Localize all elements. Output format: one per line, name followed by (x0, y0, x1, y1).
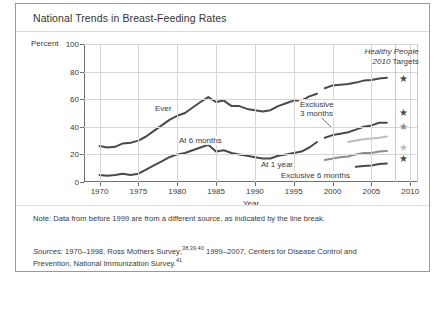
x-axis-tick-label: 1975 (129, 187, 147, 196)
note-text: Note: Data from before 1999 are from a d… (33, 213, 363, 224)
gridline-horizontal (84, 99, 418, 100)
x-axis-tick-label: 1995 (285, 187, 303, 196)
y-axis-tick-label: 60 (70, 95, 79, 104)
y-axis-tick-mark (80, 154, 84, 155)
targets-heading-line2: 2010 Targets (373, 57, 419, 66)
x-axis-tick-label: 2010 (401, 187, 419, 196)
sources-text: Sources: 1970–1998, Ross Mothers Survey;… (33, 246, 363, 269)
y-axis-name: Percent (31, 39, 59, 48)
title-divider (16, 31, 429, 32)
sources-part-1: 1970–1998, Ross Mothers Survey; (63, 247, 182, 256)
sources-label: Sources: (33, 247, 63, 256)
x-axis-tick-label: 1990 (246, 187, 264, 196)
targets-heading-line1: Healthy People (364, 47, 418, 56)
figure-root: National Trends in Breast-Feeding Rates … (0, 0, 445, 318)
gridline-vertical (100, 44, 101, 182)
x-axis-tick-label: 1985 (207, 187, 225, 196)
y-axis-tick-label: 0 (75, 178, 79, 187)
x-axis-tick-mark (410, 182, 411, 186)
x-axis-tick-mark (255, 182, 256, 186)
gridline-vertical (216, 44, 217, 182)
y-axis-tick-label: 40 (70, 122, 79, 131)
target-star-icon: ★ (399, 108, 408, 118)
page-title: National Trends in Breast-Feeding Rates (33, 12, 227, 24)
gridline-vertical (177, 44, 178, 182)
note-label: Note: (33, 214, 51, 223)
series-inline-label: Exclusive 6 months (280, 171, 351, 180)
note-body: Data from before 1999 are from a differe… (51, 214, 325, 223)
series-inline-label: Exclusive (299, 100, 335, 109)
x-axis-tick-label: 1970 (91, 187, 109, 196)
target-star-icon: ★ (399, 122, 408, 132)
gridline-horizontal (84, 44, 418, 45)
y-axis-tick-mark (80, 99, 84, 100)
x-axis-tick-mark (100, 182, 101, 186)
series-inline-label: At 6 months (178, 136, 223, 145)
target-star-icon: ★ (399, 143, 408, 153)
gridline-vertical (255, 44, 256, 182)
x-axis-title: Year (84, 199, 418, 208)
series-inline-label: 3 months (299, 109, 334, 118)
x-axis-tick-mark (138, 182, 139, 186)
x-axis-tick-mark (216, 182, 217, 186)
sources-superscript-1: 38,39,40 (182, 245, 204, 251)
targets-heading: Healthy People2010 Targets (333, 47, 419, 66)
y-axis-tick-label: 80 (70, 67, 79, 76)
target-star-icon: ★ (399, 74, 408, 84)
x-axis-tick-label: 1980 (168, 187, 186, 196)
x-axis-tick-label: 2000 (324, 187, 342, 196)
x-axis-tick-mark (371, 182, 372, 186)
note-divider (16, 205, 429, 206)
series-inline-label: At 1 year (260, 160, 294, 169)
target-star-icon: ★ (399, 154, 408, 164)
x-axis-tick-mark (294, 182, 295, 186)
x-axis-tick-mark (333, 182, 334, 186)
y-axis-tick-mark (80, 72, 84, 73)
x-axis-tick-label: 2005 (362, 187, 380, 196)
y-axis-tick-label: 20 (70, 150, 79, 159)
x-axis-tick-mark (177, 182, 178, 186)
gridline-horizontal (84, 72, 418, 73)
y-axis-tick-mark (80, 182, 84, 183)
series-inline-label: Ever (154, 104, 172, 113)
gridline-horizontal (84, 154, 418, 155)
gridline-vertical (138, 44, 139, 182)
y-axis-tick-mark (80, 44, 84, 45)
y-axis-tick-mark (80, 127, 84, 128)
plot-area: 0204060801001970197519801985199019952000… (84, 44, 418, 182)
y-axis-tick-label: 100 (66, 40, 79, 49)
sources-superscript-2: 41 (176, 257, 182, 263)
gridline-horizontal (84, 127, 418, 128)
